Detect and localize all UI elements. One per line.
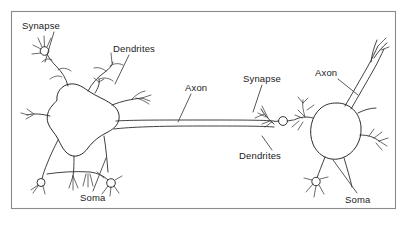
label-dendrites-left: Dendrites bbox=[113, 43, 155, 54]
label-synapse-left: Synapse bbox=[22, 20, 60, 31]
label-soma-right: Soma bbox=[345, 194, 371, 205]
neuron-diagram-figure: Synapse Dendrites Axon Synapse Axon Dend… bbox=[0, 0, 411, 226]
bouton-left-connector bbox=[275, 121, 279, 122]
label-axon-left: Axon bbox=[185, 82, 207, 93]
label-axon-right: Axon bbox=[315, 67, 337, 78]
neuron-diagram-canvas: Synapse Dendrites Axon Synapse Axon Dend… bbox=[0, 0, 411, 226]
soma-right-body bbox=[311, 103, 361, 159]
label-soma-left: Soma bbox=[80, 192, 106, 203]
label-synapse-right: Synapse bbox=[243, 73, 281, 84]
synapse-bouton-icon bbox=[279, 117, 288, 126]
label-dendrites-right: Dendrites bbox=[239, 150, 281, 161]
